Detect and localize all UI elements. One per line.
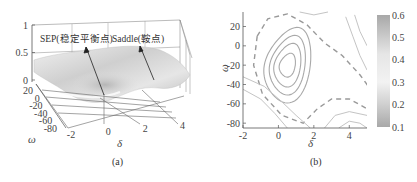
colorbar-tick-label: 0.5: [392, 32, 405, 43]
y-tick-label: 0: [235, 40, 240, 51]
x-tick-label: -2: [239, 130, 247, 141]
panel-a-xlabel: δ: [117, 137, 123, 149]
delta-tick-label: -2: [67, 129, 75, 140]
panel-b-xlabel: δ: [308, 137, 314, 149]
x-tick-label: 4: [347, 130, 352, 141]
y-tick-label: -80: [227, 118, 240, 129]
colorbar-tick-label: 0.6: [392, 10, 405, 21]
panel-a-surface: SEP(稳定平衡点) Saddle(鞍点) 00.51 200-20-40-60…: [16, 20, 193, 169]
separatrix: [257, 14, 370, 89]
delta-tick-label: 4: [180, 120, 185, 131]
omega-tick-label: -80: [44, 123, 57, 134]
surface-well: [71, 68, 139, 96]
omega-tick-label: 20: [23, 85, 33, 96]
saddle-annotation: Saddle(鞍点): [112, 33, 164, 45]
sep-arrowhead: [84, 47, 89, 53]
colorbar: [377, 15, 390, 127]
sep-annotation: SEP(稳定平衡点): [40, 33, 113, 45]
contour-line: [279, 53, 295, 77]
z-tick-label: 0.5: [16, 47, 29, 58]
panel-b-caption: (b): [310, 156, 322, 168]
panel-a-caption: (a): [112, 156, 123, 168]
colorbar-tick-label: 0.1: [392, 122, 405, 133]
colorbar-tick-label: 0.4: [392, 54, 405, 65]
z-tick-label: 1: [23, 20, 28, 31]
colorbar-tick-label: 0.3: [392, 77, 405, 88]
panel-b-ylabel: ω: [218, 64, 230, 72]
y-tick-label: -40: [227, 79, 240, 90]
delta-tick-label: 2: [143, 123, 148, 134]
delta-tick-label: 0: [106, 126, 111, 137]
contour-line: [355, 15, 367, 46]
z-tick-label: 0: [23, 75, 28, 86]
contour-line: [339, 121, 367, 128]
colorbar-tick-label: 0.2: [392, 99, 405, 110]
contour-line: [300, 12, 328, 15]
panel-b-contour: -2024 200-20-40-60-80 0.60.50.40.30.20.1…: [218, 10, 405, 169]
y-tick-label: -60: [227, 98, 240, 109]
contour-line: [243, 89, 287, 128]
x-tick-label: 0: [276, 130, 281, 141]
y-tick-label: 20: [230, 21, 240, 32]
panel-a-ylabel: ω: [28, 133, 36, 145]
contour-line: [274, 43, 301, 87]
contour-line: [325, 112, 368, 128]
figure: SEP(稳定平衡点) Saddle(鞍点) 00.51 200-20-40-60…: [0, 0, 417, 182]
